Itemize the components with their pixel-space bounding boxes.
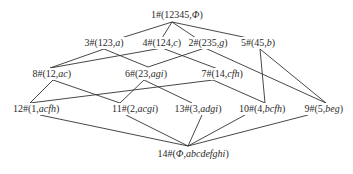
node-suffix: ) [340, 103, 343, 114]
edge-11-to-14 [126, 115, 188, 146]
node-suffix: ) [225, 148, 228, 159]
concept-node-12: 12#(1,acfh) [12, 103, 60, 115]
edge-8-to-11 [53, 80, 120, 103]
node-prefix: 9#( [305, 103, 318, 114]
node-extent: 123 [98, 37, 113, 48]
node-extent: 12 [46, 68, 56, 79]
edge-8-to-12 [30, 80, 53, 103]
concept-node-3: 3#(123,a) [84, 37, 125, 49]
node-prefix: 12#( [13, 103, 31, 114]
edge-7-to-10 [213, 80, 265, 103]
edge-3-to-8 [50, 49, 104, 68]
node-intent: ac [58, 68, 67, 79]
edge-10-to-14 [188, 115, 245, 146]
node-intent: agi [151, 68, 164, 79]
node-intent: bcfh [265, 103, 282, 114]
concept-node-1: 1#(12345,Φ) [150, 9, 204, 21]
node-suffix: ) [56, 103, 59, 114]
node-prefix: 5#( [241, 37, 254, 48]
node-prefix: 14#( [158, 148, 176, 159]
node-suffix: ) [272, 37, 275, 48]
node-extent: 14 [215, 68, 225, 79]
node-prefix: 1#( [151, 9, 164, 20]
node-intent: abcdefghi [186, 148, 225, 159]
concept-lattice-diagram: 1#(12345,Φ)3#(123,a)4#(124,c)2#(235,g)5#… [0, 0, 353, 174]
edge-9-to-14 [188, 115, 308, 146]
concept-node-5: 5#(45,b) [240, 37, 276, 49]
node-suffix: ) [178, 37, 181, 48]
node-prefix: 2#( [189, 37, 202, 48]
node-extent: 235 [202, 37, 217, 48]
edge-4-to-7 [162, 48, 218, 69]
concept-node-13: 13#(3,adgi) [174, 103, 223, 115]
node-prefix: 6#( [125, 68, 138, 79]
concept-node-10: 10#(4,bcfh) [238, 103, 286, 115]
concept-node-9: 9#(5,beg) [304, 103, 345, 115]
edge-4-to-8 [50, 48, 162, 68]
concept-node-7: 7#(14,cfh) [201, 68, 244, 80]
node-suffix: ) [224, 37, 227, 48]
concept-node-11: 11#(2,acgi) [111, 103, 159, 115]
node-prefix: 3#( [85, 37, 98, 48]
node-intent: acgi [137, 103, 154, 114]
concept-node-2: 2#(235,g) [188, 37, 229, 49]
node-extent: 45 [254, 37, 264, 48]
node-intent: beg [325, 103, 339, 114]
node-suffix: ) [164, 68, 167, 79]
node-prefix: 13#( [175, 103, 193, 114]
node-suffix: ) [199, 9, 202, 20]
node-extent: 23 [138, 68, 148, 79]
node-intent: adgi [200, 103, 218, 114]
concept-node-8: 8#(12,ac) [32, 68, 73, 80]
node-suffix: ) [68, 68, 71, 79]
edge-12-to-14 [40, 115, 188, 146]
node-suffix: ) [155, 103, 158, 114]
node-prefix: 10#( [239, 103, 257, 114]
node-suffix: ) [240, 68, 243, 79]
edge-2-to-6 [148, 48, 205, 67]
node-prefix: 7#( [202, 68, 215, 79]
node-suffix: ) [120, 37, 123, 48]
edge-5-to-9 [260, 49, 326, 103]
concept-node-14: 14#(Φ,abcdefghi) [157, 148, 230, 160]
edge-5-to-10 [260, 49, 265, 103]
node-prefix: 8#( [33, 68, 46, 79]
edge-13-to-14 [188, 115, 202, 146]
node-intent: cfh [227, 68, 239, 79]
concept-node-6: 6#(23,agi) [124, 68, 168, 80]
node-intent: acfh [39, 103, 56, 114]
node-prefix: 11#( [112, 103, 130, 114]
node-suffix: ) [218, 103, 221, 114]
concept-node-4: 4#(124,c) [142, 37, 183, 49]
node-prefix: 4#( [143, 37, 156, 48]
node-suffix: ) [282, 103, 285, 114]
node-extent: 12345 [164, 9, 189, 20]
node-extent: 124 [156, 37, 171, 48]
